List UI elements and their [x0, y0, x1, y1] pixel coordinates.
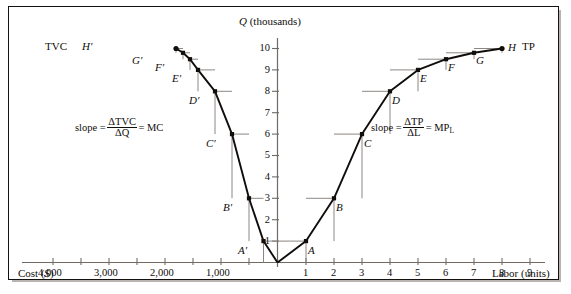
x-left-tick-label-1000: 1,000 [206, 268, 230, 279]
point-label-H: H [508, 42, 516, 53]
y-tick-label-3: 3 [262, 193, 270, 204]
x-left-tick-label-3000: 3,000 [94, 268, 118, 279]
tvc-formula-result: MC [147, 122, 163, 133]
x-right-tick-label-6: 6 [443, 268, 448, 279]
tp-formula-equals: = [426, 122, 432, 133]
tp-curve-label: TP [522, 41, 535, 52]
y-tick-label-8: 8 [262, 86, 270, 97]
tvc-slope-formula: slope =ΔTVCΔQ= MC [75, 117, 163, 140]
y-tick-label-6: 6 [262, 129, 270, 140]
x-right-tick-label-4: 4 [387, 268, 392, 279]
x-right-tick-label-5: 5 [415, 268, 420, 279]
tvc-curve-label: TVC [45, 41, 67, 52]
tp-curve [278, 49, 503, 263]
x-axis-left-title: Cost ($) [18, 268, 54, 279]
tvc-formula-denominator: ΔQ [107, 128, 137, 139]
x-axis-left-ticks [53, 258, 249, 265]
y-axis-title: Q (thousands) [239, 16, 301, 27]
tp-formula-lead: slope = [371, 122, 402, 133]
point-label-D-prime: D′ [189, 95, 199, 106]
x-right-tick-label-2: 2 [331, 268, 336, 279]
y-tick-label-4: 4 [262, 172, 270, 183]
tp-formula-denominator: ΔL [403, 128, 424, 139]
point-label-B-prime: B′ [223, 202, 232, 213]
tvc-formula-equals: = [138, 122, 144, 133]
x-right-tick-label-3: 3 [359, 268, 364, 279]
x-right-tick-label-7: 7 [471, 268, 476, 279]
point-label-E-prime: E′ [172, 73, 181, 84]
point-label-B: B [336, 202, 343, 213]
figure-container: Q (thousands) 1 2 3 4 5 6 7 8 9 10 1 2 3… [0, 0, 571, 294]
point-label-C-prime: C′ [206, 138, 216, 149]
x-left-tick-label-2000: 2,000 [150, 268, 174, 279]
point-label-E: E [420, 73, 427, 84]
y-tick-label-2: 2 [262, 215, 270, 226]
tvc-data-points [173, 46, 265, 243]
point-label-G-prime: G′ [132, 55, 142, 66]
x-axis-right-title: Labor (units) [492, 268, 550, 279]
point-label-A-prime: A′ [238, 245, 247, 256]
point-label-G: G [476, 55, 484, 66]
x-axis-right-ticks [306, 258, 530, 265]
y-tick-label-9: 9 [262, 65, 270, 76]
y-tick-label-1: 1 [262, 236, 270, 247]
tp-formula-result-subscript: L [449, 126, 454, 135]
tp-formula-result: MP [434, 122, 449, 133]
y-tick-label-7: 7 [262, 108, 270, 119]
point-label-F: F [448, 62, 455, 73]
tvc-formula-lead: slope = [75, 122, 106, 133]
y-tick-label-10: 10 [256, 43, 270, 54]
y-tick-label-5: 5 [262, 150, 270, 161]
point-label-A: A [308, 245, 315, 256]
tp-slope-formula: slope =ΔTPΔL= MPL [371, 117, 454, 140]
tvc-formula-fraction: ΔTVCΔQ [107, 117, 137, 140]
point-label-H-prime: H′ [82, 41, 92, 52]
point-label-D: D [392, 95, 400, 106]
tp-step-lines [278, 49, 503, 263]
tp-formula-fraction: ΔTPΔL [403, 117, 424, 140]
axis-lines [22, 38, 545, 267]
point-label-F-prime: F′ [155, 62, 164, 73]
x-right-tick-label-1: 1 [303, 268, 308, 279]
